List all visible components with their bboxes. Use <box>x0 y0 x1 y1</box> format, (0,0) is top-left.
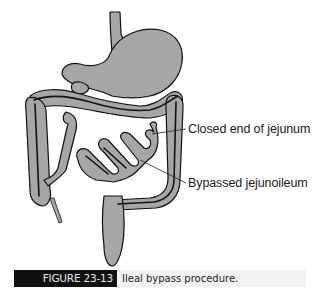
ileal-bypass-figure: Closed end of jejunum Bypassed jejunoile… <box>0 0 321 302</box>
label-bypassed-jejunoileum: Bypassed jejunoileum <box>188 176 308 190</box>
rectum <box>103 196 125 266</box>
appendix <box>50 198 62 223</box>
figure-caption: FIGURE 23-13 Ileal bypass procedure. <box>14 270 306 287</box>
label-closed-end-of-jejunum: Closed end of jejunum <box>188 122 310 136</box>
jejunum-coils <box>77 122 158 182</box>
caption-text: Ileal bypass procedure. <box>117 273 238 284</box>
figure-number: FIGURE 23-13 <box>14 270 117 287</box>
digestive-tract-illustration <box>0 0 321 302</box>
